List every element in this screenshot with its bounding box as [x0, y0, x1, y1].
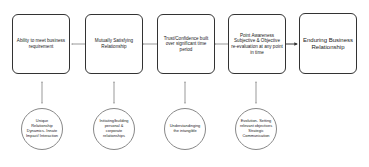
- circle-label: Understandinging the intangible: [168, 124, 202, 134]
- box-ability: Ability to meet business requirement: [12, 14, 70, 74]
- box-point-awareness: Point Awareness Subjective & Objective r…: [228, 14, 286, 74]
- box-label: Point Awareness Subjective & Objective r…: [231, 33, 283, 55]
- circle-initiating: Initiating/building personal & corporate…: [93, 108, 135, 150]
- box-trust: Trust/Confidence built over significant …: [157, 14, 215, 74]
- circle-evolution: Evolution- Setting relevant objectives S…: [235, 108, 277, 150]
- box-label: Trust/Confidence built over significant …: [160, 36, 212, 53]
- circle-understanding: Understandinging the intangible: [164, 108, 206, 150]
- box-label: Mutually Satisfying Relationship: [88, 38, 140, 49]
- circle-label: Initiating/building personal & corporate…: [97, 119, 131, 138]
- circle-label: Unique Relationship Dynamics- Innate Imp…: [25, 119, 59, 138]
- box-mutually-satisfying: Mutually Satisfying Relationship: [85, 14, 143, 74]
- box-label: Ability to meet business requirement: [15, 38, 67, 49]
- circle-unique-dynamics: Unique Relationship Dynamics- Innate Imp…: [21, 108, 63, 150]
- circle-label: Evolution- Setting relevant objectives S…: [239, 119, 273, 138]
- box-enduring-relationship: Enduring Business Relationship: [299, 13, 357, 74]
- box-label: Enduring Business Relationship: [302, 37, 354, 51]
